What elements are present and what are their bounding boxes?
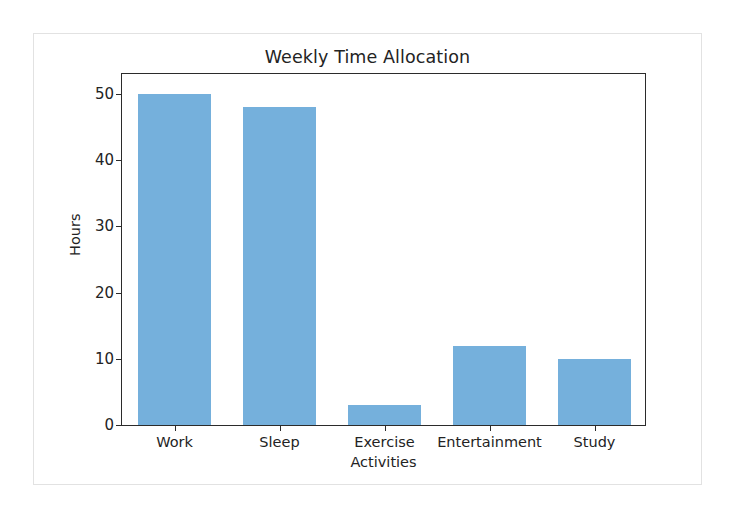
x-tick-label-sleep: Sleep [259, 434, 299, 450]
bar-entertainment [453, 346, 527, 425]
y-tick [116, 359, 122, 360]
x-tick-label-entertainment: Entertainment [437, 434, 542, 450]
y-axis-label: Hours [67, 214, 83, 256]
bar-work [138, 94, 212, 425]
y-tick-label-50: 50 [95, 85, 114, 103]
x-tick [280, 425, 281, 431]
y-tick [116, 293, 122, 294]
bar-study [558, 359, 632, 425]
x-tick [595, 425, 596, 431]
y-tick [116, 160, 122, 161]
figure-card: Weekly Time Allocation Hours Activities … [33, 33, 702, 485]
x-tick [385, 425, 386, 431]
y-tick [116, 94, 122, 95]
y-tick-label-40: 40 [95, 151, 114, 169]
x-tick [175, 425, 176, 431]
y-tick [116, 425, 122, 426]
y-tick-label-20: 20 [95, 284, 114, 302]
x-tick-label-work: Work [156, 434, 193, 450]
bar-exercise [348, 405, 422, 425]
x-tick-label-study: Study [574, 434, 616, 450]
bars-layer [122, 94, 645, 425]
y-tick-label-30: 30 [95, 217, 114, 235]
bar-sleep [243, 107, 317, 425]
x-tick-label-exercise: Exercise [354, 434, 414, 450]
chart-title: Weekly Time Allocation [34, 47, 701, 67]
x-tick [490, 425, 491, 431]
y-tick-label-10: 10 [95, 350, 114, 368]
y-tick [116, 226, 122, 227]
y-tick-label-0: 0 [104, 416, 114, 434]
x-axis-label: Activities [121, 454, 646, 470]
plot-area: WorkSleepExerciseEntertainmentStudy01020… [121, 73, 646, 426]
